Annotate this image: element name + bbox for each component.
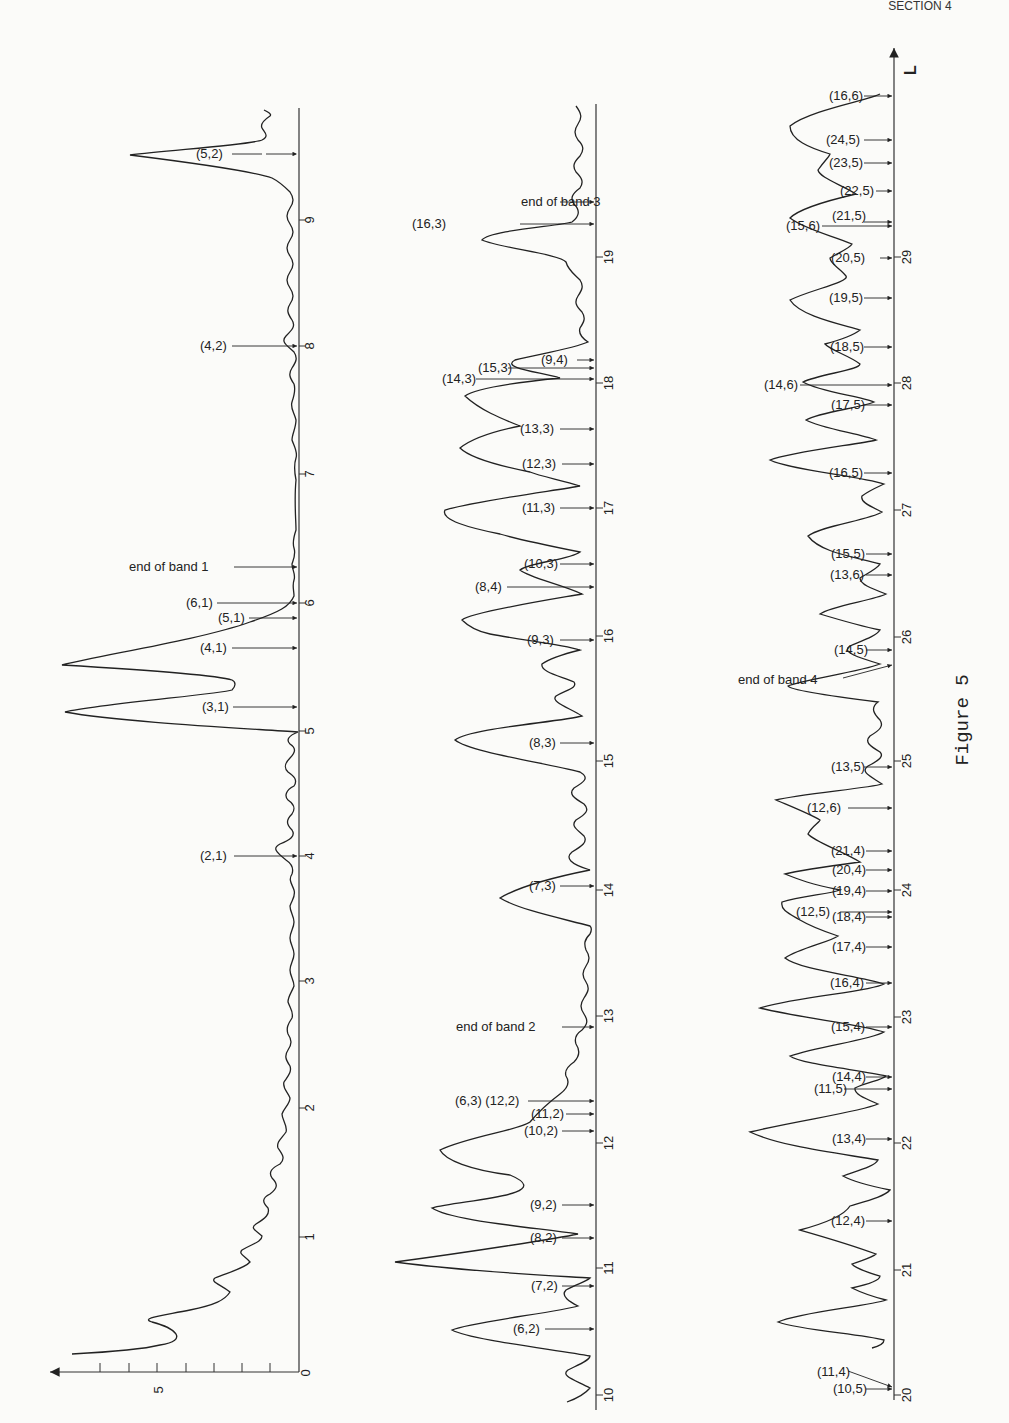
svg-text:18: 18 [601, 376, 616, 390]
svg-text:(8,3): (8,3) [529, 735, 556, 750]
svg-text:(5,2): (5,2) [196, 146, 223, 161]
svg-text:(14,5): (14,5) [834, 642, 868, 657]
svg-text:2: 2 [302, 1104, 317, 1111]
svg-text:29: 29 [899, 250, 914, 264]
svg-text:(3,1): (3,1) [202, 699, 229, 714]
svg-text:10: 10 [601, 1388, 616, 1402]
svg-text:(8,2): (8,2) [530, 1230, 557, 1245]
svg-text:end of band 1: end of band 1 [129, 559, 209, 574]
svg-text:(15,4): (15,4) [831, 1019, 865, 1034]
svg-text:end of band 3: end of band 3 [521, 194, 601, 209]
svg-text:15: 15 [601, 754, 616, 768]
svg-text:(5,1): (5,1) [218, 610, 245, 625]
svg-text:(9,3): (9,3) [527, 632, 554, 647]
svg-text:(8,4): (8,4) [475, 579, 502, 594]
svg-text:20: 20 [899, 1388, 914, 1402]
svg-text:16: 16 [601, 629, 616, 643]
svg-text:(10,5): (10,5) [833, 1381, 867, 1396]
svg-text:9: 9 [302, 216, 317, 223]
panel-2-annotations: (6,2) (7,2) (8,2) (9,2) (10,2) (11,2) (6… [412, 194, 601, 1336]
svg-text:(4,1): (4,1) [200, 640, 227, 655]
panel-1-ticks: 1 2 3 4 5 6 7 8 9 [302, 216, 317, 1240]
svg-text:(19,4): (19,4) [832, 883, 866, 898]
svg-text:(12,5): (12,5) [796, 904, 830, 919]
svg-text:(13,6): (13,6) [830, 567, 864, 582]
svg-text:(17,4): (17,4) [832, 939, 866, 954]
svg-text:end of band 2: end of band 2 [456, 1019, 536, 1034]
svg-text:end of band 4: end of band 4 [738, 672, 818, 687]
svg-text:(17,5): (17,5) [831, 397, 865, 412]
svg-text:(10,2): (10,2) [524, 1123, 558, 1138]
svg-text:7: 7 [302, 470, 317, 477]
svg-text:26: 26 [899, 630, 914, 644]
svg-text:(4,2): (4,2) [200, 338, 227, 353]
svg-text:28: 28 [899, 376, 914, 390]
svg-text:(20,4): (20,4) [832, 862, 866, 877]
svg-text:(24,5): (24,5) [826, 132, 860, 147]
svg-text:23: 23 [899, 1010, 914, 1024]
svg-text:(15,6): (15,6) [786, 218, 820, 233]
svg-text:8: 8 [302, 342, 317, 349]
svg-text:(19,5): (19,5) [829, 290, 863, 305]
svg-text:25: 25 [899, 754, 914, 768]
svg-text:(15,3): (15,3) [478, 360, 512, 375]
svg-text:(9,4): (9,4) [541, 352, 568, 367]
svg-text:27: 27 [899, 503, 914, 517]
panel-1: 5 0 1 2 3 4 5 6 7 8 9 (2,1) (3,1) ( [50, 108, 317, 1394]
panel-2-curve [395, 106, 592, 1402]
svg-text:(13,5): (13,5) [831, 759, 865, 774]
svg-text:(20,5): (20,5) [831, 250, 865, 265]
svg-text:6: 6 [302, 599, 317, 606]
panel-3-ticks: 20 21 22 23 24 25 26 27 28 29 [899, 250, 914, 1402]
svg-text:(11,4): (11,4) [817, 1364, 850, 1379]
svg-text:(21,4): (21,4) [831, 843, 865, 858]
svg-text:(16,5): (16,5) [829, 465, 863, 480]
svg-text:4: 4 [302, 852, 317, 859]
svg-text:(6,2): (6,2) [513, 1321, 540, 1336]
svg-text:12: 12 [601, 1136, 616, 1150]
svg-text:(11,3): (11,3) [522, 500, 555, 515]
panel-2: 10 11 12 13 14 15 16 17 18 19 (6,2) (7,2… [395, 104, 616, 1410]
svg-text:(13,4): (13,4) [832, 1131, 866, 1146]
svg-text:(6,3) (12,2): (6,3) (12,2) [455, 1093, 519, 1108]
svg-text:(21,5): (21,5) [832, 208, 866, 223]
svg-text:14: 14 [601, 883, 616, 897]
axis-label-L: L [902, 65, 919, 75]
figure-5: SECTION 4 5 0 1 2 3 4 5 6 7 8 9 [0, 0, 1009, 1423]
svg-text:(13,3): (13,3) [520, 421, 554, 436]
svg-text:(6,1): (6,1) [186, 595, 213, 610]
svg-text:(22,5): (22,5) [840, 183, 874, 198]
intensity-ticks [100, 1363, 270, 1372]
svg-text:22: 22 [899, 1136, 914, 1150]
svg-text:(9,2): (9,2) [530, 1197, 557, 1212]
svg-text:(14,4): (14,4) [832, 1069, 866, 1084]
svg-text:(12,4): (12,4) [831, 1213, 865, 1228]
panel-2-ticks: 10 11 12 13 14 15 16 17 18 19 [601, 250, 616, 1402]
svg-text:(2,1): (2,1) [200, 848, 227, 863]
svg-text:19: 19 [601, 250, 616, 264]
svg-text:(23,5): (23,5) [829, 155, 863, 170]
panel-1-curve [62, 110, 298, 1354]
svg-text:(7,3): (7,3) [529, 878, 556, 893]
svg-text:(16,6): (16,6) [829, 88, 863, 103]
svg-text:(11,2): (11,2) [531, 1106, 564, 1121]
svg-text:1: 1 [302, 1233, 317, 1240]
svg-text:11: 11 [601, 1261, 616, 1275]
svg-text:5: 5 [302, 727, 317, 734]
intensity-tick-5: 5 [151, 1386, 166, 1393]
svg-text:(12,6): (12,6) [807, 800, 841, 815]
svg-text:(16,4): (16,4) [830, 975, 864, 990]
svg-text:(7,2): (7,2) [531, 1278, 558, 1293]
tick-0: 0 [298, 1369, 313, 1376]
panel-1-annotations: (2,1) (3,1) (4,1) (5,1) (6,1) end of ban… [129, 146, 297, 863]
svg-text:21: 21 [899, 1263, 914, 1277]
svg-text:(10,3): (10,3) [524, 556, 558, 571]
svg-text:24: 24 [899, 883, 914, 897]
panel-3-curve [750, 94, 890, 1348]
panel-3: L 20 21 22 23 24 25 26 27 28 29 (10,5) (… [738, 48, 919, 1402]
svg-text:(14,3): (14,3) [442, 371, 476, 386]
svg-text:(14,6): (14,6) [764, 377, 798, 392]
svg-text:17: 17 [601, 501, 616, 515]
page-header: SECTION 4 [888, 0, 952, 13]
svg-text:(15,5): (15,5) [831, 546, 865, 561]
